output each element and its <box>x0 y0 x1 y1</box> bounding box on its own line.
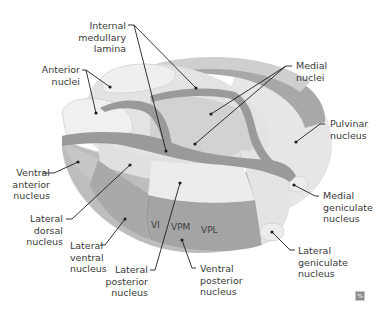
label-lateral-geniculate-nucleus: Lateral geniculate nucleus <box>298 245 348 280</box>
label-pulvinar-nucleus: Pulvinar nucleus <box>330 118 368 141</box>
label-lateral-ventral-nucleus: Lateral ventral nucleus <box>70 240 102 275</box>
label-internal-medullary-lamina: Internal medullary lamina <box>78 20 126 55</box>
label-medial-nuclei: Medial nuclei <box>296 60 327 83</box>
label-anterior-nuclei: Anterior nuclei <box>42 64 80 87</box>
label-lateral-dorsal-nucleus: Lateral dorsal nucleus <box>26 213 63 248</box>
region-vpl: VPL <box>201 225 218 235</box>
publisher-badge-icon: % <box>355 291 365 301</box>
label-ventral-anterior-nucleus: Ventral anterior nucleus <box>12 167 50 202</box>
label-lateral-posterior-nucleus: Lateral posterior nucleus <box>105 264 148 299</box>
region-vpm: VPM <box>171 222 190 232</box>
label-ventral-posterior-nucleus: Ventral posterior nucleus <box>200 263 243 298</box>
region-vl: Vl <box>151 220 160 230</box>
label-medial-geniculate-nucleus: Medial geniculate nucleus <box>323 190 373 225</box>
